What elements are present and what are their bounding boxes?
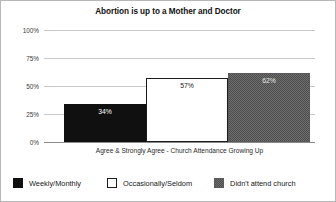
gridline-75 — [44, 58, 315, 59]
x-axis-line — [44, 142, 315, 143]
legend-swatch-icon-0 — [13, 178, 23, 188]
legend-swatch-icon-1 — [107, 178, 117, 188]
bar-value-label-1: 57% — [147, 83, 227, 90]
y-axis-tick-50: 50% — [5, 83, 39, 90]
legend-item-weekly-monthly[interactable]: Weekly/Monthly — [13, 178, 81, 188]
legend-label-1: Occasionally/Seldom — [123, 179, 192, 188]
y-axis-tick-75: 75% — [5, 55, 39, 62]
legend-label-0: Weekly/Monthly — [29, 179, 81, 188]
y-axis-tick-100: 100% — [5, 27, 39, 34]
x-axis-category-label: Agree & Strongly Agree - Church Attendan… — [44, 147, 315, 154]
legend-item-didnt-attend-church[interactable]: Didn't attend church — [214, 178, 296, 188]
bar-didnt-attend-church[interactable]: 62% — [228, 73, 310, 142]
y-axis-tick-25: 25% — [5, 111, 39, 118]
plot-area: 34% 57% 62% — [44, 30, 315, 142]
legend-item-occasionally-seldom[interactable]: Occasionally/Seldom — [107, 178, 192, 188]
chart-title: Abortion is up to a Mother and Doctor — [1, 7, 335, 16]
legend-swatch-icon-2 — [214, 178, 224, 188]
chart-figure: Abortion is up to a Mother and Doctor 0%… — [0, 0, 336, 202]
bar-weekly-monthly[interactable]: 34% — [64, 104, 146, 142]
chart-legend: Weekly/Monthly Occasionally/Seldom Didn'… — [1, 173, 335, 193]
bar-value-label-2: 62% — [229, 78, 309, 85]
y-axis-tick-0: 0% — [5, 139, 39, 146]
legend-label-2: Didn't attend church — [230, 179, 296, 188]
bar-occasionally-seldom[interactable]: 57% — [146, 78, 228, 142]
bar-value-label-0: 34% — [65, 109, 145, 116]
gridline-100 — [44, 30, 315, 31]
